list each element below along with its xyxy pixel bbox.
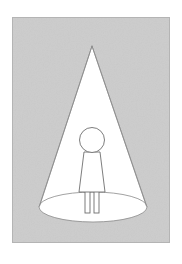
illustration-canvas: Spotlight Figure Illustration A simple o… bbox=[0, 0, 182, 264]
right-leg bbox=[94, 190, 99, 213]
floor-light-pool bbox=[39, 192, 147, 222]
left-leg bbox=[85, 190, 90, 213]
spotlight-figure-illustration bbox=[0, 0, 182, 264]
body-dress bbox=[79, 152, 105, 192]
head bbox=[80, 128, 105, 153]
